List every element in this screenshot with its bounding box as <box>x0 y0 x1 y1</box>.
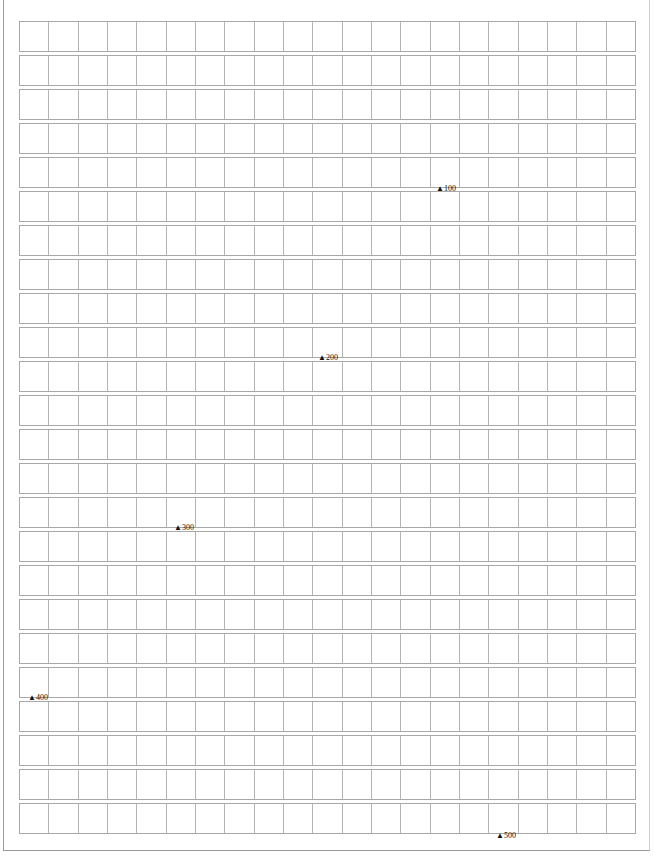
grid-cell <box>167 804 196 833</box>
grid-cell <box>20 56 49 85</box>
grid-cell <box>489 158 518 187</box>
grid-cell <box>343 702 372 731</box>
grid-cell <box>372 498 401 527</box>
grid-cell <box>372 396 401 425</box>
grid-cell <box>108 532 137 561</box>
marker-label: 300 <box>182 523 194 532</box>
grid-cell <box>313 396 342 425</box>
grid-cell <box>401 770 430 799</box>
grid-cell <box>489 770 518 799</box>
grid-cell <box>49 668 78 697</box>
grid-row <box>19 769 636 800</box>
grid-cell <box>401 294 430 323</box>
grid-cell <box>137 226 166 255</box>
grid-cell <box>372 124 401 153</box>
grid-cell <box>313 362 342 391</box>
grid-cell <box>225 498 254 527</box>
grid-row <box>19 157 636 188</box>
grid-cell <box>284 294 313 323</box>
grid-cell <box>225 396 254 425</box>
grid-cell <box>372 736 401 765</box>
grid-cell <box>49 702 78 731</box>
grid-cell <box>489 124 518 153</box>
grid-cell <box>49 770 78 799</box>
grid-cell <box>343 770 372 799</box>
grid-cell <box>577 158 606 187</box>
grid-cell <box>489 260 518 289</box>
grid-cell <box>108 294 137 323</box>
grid-row <box>19 89 636 120</box>
grid-row <box>19 361 636 392</box>
grid-row <box>19 735 636 766</box>
grid-cell <box>284 158 313 187</box>
grid-cell <box>255 90 284 119</box>
grid-cell <box>372 804 401 833</box>
grid-cell <box>79 464 108 493</box>
grid-cell <box>489 192 518 221</box>
grid-row <box>19 701 636 732</box>
grid-cell <box>79 770 108 799</box>
grid-cell <box>460 158 489 187</box>
grid-cell <box>548 464 577 493</box>
grid-cell <box>401 532 430 561</box>
grid-cell <box>489 294 518 323</box>
grid-cell <box>196 464 225 493</box>
grid-cell <box>372 90 401 119</box>
grid-cell <box>313 532 342 561</box>
grid-cell <box>167 702 196 731</box>
grid-cell <box>431 328 460 357</box>
grid-cell <box>167 328 196 357</box>
grid-cell <box>372 566 401 595</box>
grid-cell <box>548 158 577 187</box>
grid-cell <box>255 600 284 629</box>
grid-cell <box>255 124 284 153</box>
grid-cell <box>548 294 577 323</box>
grid-cell <box>49 226 78 255</box>
grid-cell <box>519 90 548 119</box>
grid-cell <box>196 362 225 391</box>
grid-cell <box>313 22 342 51</box>
grid-cell <box>343 804 372 833</box>
grid-cell <box>196 56 225 85</box>
grid-cell <box>489 600 518 629</box>
grid-cell <box>607 260 635 289</box>
grid-cell <box>577 770 606 799</box>
grid-cell <box>225 328 254 357</box>
grid-row <box>19 293 636 324</box>
grid-cell <box>108 192 137 221</box>
grid-cell <box>196 158 225 187</box>
grid-cell <box>519 56 548 85</box>
grid-cell <box>284 90 313 119</box>
grid-cell <box>225 226 254 255</box>
grid-cell <box>431 668 460 697</box>
grid-row <box>19 21 636 52</box>
grid-cell <box>79 90 108 119</box>
grid-cell <box>313 668 342 697</box>
grid-cell <box>20 634 49 663</box>
grid-cell <box>137 532 166 561</box>
grid-cell <box>548 226 577 255</box>
grid-cell <box>343 464 372 493</box>
grid-cell <box>137 90 166 119</box>
grid-cell <box>20 226 49 255</box>
grid-cell <box>460 362 489 391</box>
grid-cell <box>313 566 342 595</box>
grid-cell <box>519 532 548 561</box>
grid-cell <box>79 566 108 595</box>
grid-cell <box>49 260 78 289</box>
grid-cell <box>255 226 284 255</box>
grid-cell <box>431 90 460 119</box>
grid-cell <box>401 396 430 425</box>
char-count-marker: ▲400 <box>28 694 48 702</box>
grid-cell <box>577 804 606 833</box>
grid-cell <box>519 328 548 357</box>
grid-cell <box>313 600 342 629</box>
grid-cell <box>49 90 78 119</box>
grid-cell <box>372 702 401 731</box>
grid-cell <box>607 158 635 187</box>
grid-cell <box>225 294 254 323</box>
grid-cell <box>255 22 284 51</box>
grid-cell <box>79 498 108 527</box>
grid-cell <box>49 56 78 85</box>
grid-cell <box>108 498 137 527</box>
